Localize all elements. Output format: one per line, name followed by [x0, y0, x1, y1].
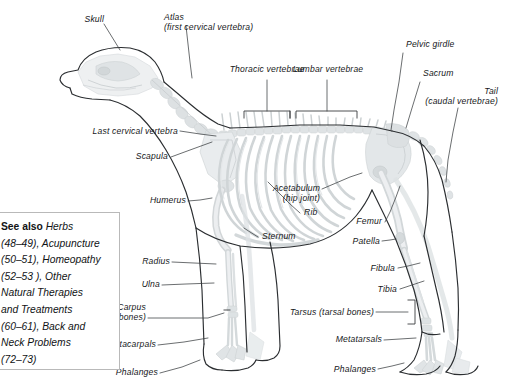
label-patella: Patella	[302, 236, 380, 247]
label-tail-line1: Tail	[398, 86, 498, 97]
label-acetabulum-line1: Acetabulum	[232, 183, 320, 194]
label-acetabulum-line2: (hip joint)	[232, 193, 320, 204]
label-tail-line2: (caudal vertebrae)	[398, 96, 498, 107]
label-phalanges-hind: Phalanges	[288, 364, 376, 375]
see-also-text: See also Herbs (48–49), Acupuncture (50–…	[1, 219, 119, 368]
label-atlas-line1: Atlas	[164, 12, 294, 23]
label-last-cervical-vertebra: Last cervical vertebra	[58, 126, 178, 137]
see-also-body: Herbs (48–49), Acupuncture (50–51), Home…	[1, 221, 101, 365]
label-scapula: Scapula	[88, 151, 168, 162]
label-skull: Skull	[32, 14, 104, 25]
label-fibula: Fibula	[320, 263, 395, 274]
label-metatarsals: Metatarsals	[288, 334, 382, 345]
label-pelvic-girdle: Pelvic girdle	[406, 39, 502, 50]
label-tarsus: Tarsus (tarsal bones)	[254, 307, 374, 318]
label-humerus: Humerus	[108, 195, 186, 206]
label-tibia: Tibia	[322, 284, 397, 295]
label-sacrum: Sacrum	[423, 68, 493, 79]
skeleton-diagram-page: Skull Atlas (first cervical vertebra) Th…	[0, 0, 506, 387]
label-femur: Femur	[308, 216, 382, 227]
label-lumbar-vertebrae: Lumbar vertebrae	[283, 64, 373, 75]
label-atlas-line2: (first cervical vertebra)	[164, 22, 294, 33]
see-also-lead: See also	[1, 221, 43, 232]
see-also-box: See also Herbs (48–49), Acupuncture (50–…	[0, 212, 120, 370]
